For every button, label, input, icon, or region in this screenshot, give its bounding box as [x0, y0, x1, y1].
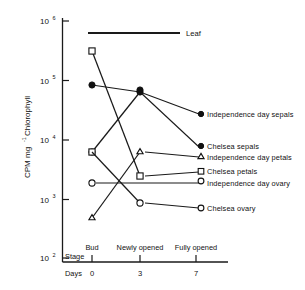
data-point	[137, 173, 143, 179]
x-category-fully-opened: Fully opened	[175, 243, 217, 252]
y-tick-mantissa: 10	[40, 136, 49, 145]
series-line-path	[92, 152, 140, 218]
legend-label: Independence day petals	[207, 153, 292, 162]
data-point	[137, 87, 143, 93]
filled-circle-icon	[198, 143, 203, 148]
row-label-stage: Stage	[65, 252, 84, 261]
y-tick-exponent: 5	[53, 74, 56, 80]
data-point	[137, 149, 143, 154]
legend-label: Chelsea ovary	[207, 204, 256, 213]
leader-line	[140, 92, 199, 147]
data-point	[89, 82, 95, 88]
leaf-reference-annotation: Leaf	[88, 29, 202, 38]
legend-item-independence-day-ovary[interactable]: Independence day ovary	[198, 178, 290, 188]
legend: Independence day sepals Chelsea sepals I…	[198, 110, 294, 213]
x-category-newly-opened: Newly opened	[117, 243, 164, 252]
series-independence-day-petals	[89, 149, 199, 220]
y-tick-label-1e4: 10 4	[40, 134, 56, 146]
y-tick-mantissa: 10	[40, 17, 49, 26]
legend-item-chelsea-petals[interactable]: Chelsea petals	[198, 167, 257, 176]
y-tick-label-1e3: 10 3	[40, 193, 56, 205]
y-tick-exponent: 2	[53, 252, 56, 258]
leaf-label: Leaf	[186, 29, 202, 38]
open-triangle-icon	[198, 153, 204, 158]
row-label-days: Days	[65, 269, 82, 278]
y-tick-mantissa: 10	[40, 254, 49, 263]
x-category-bud: Bud	[85, 243, 98, 252]
y-tick-exponent: 3	[53, 193, 56, 199]
open-square-icon	[198, 169, 204, 175]
filled-circle-icon	[198, 111, 203, 116]
legend-label: Chelsea petals	[207, 167, 257, 176]
y-axis: 10 6 10 5 10 4 10 3 10 2 CPM mg -1	[21, 15, 69, 264]
series-chelsea-sepals	[89, 87, 199, 155]
y-axis-title: CPM mg -1 Chlorophyll	[21, 96, 32, 178]
legend-label: Independence day sepals	[207, 110, 294, 119]
y-tick-label-1e6: 10 6	[40, 15, 56, 27]
y-tick-exponent: 4	[53, 134, 56, 140]
series-line-path	[92, 152, 140, 203]
y-axis-title-main: CPM mg	[23, 147, 32, 178]
y-tick-mantissa: 10	[40, 196, 49, 205]
y-tick-exponent: 6	[53, 15, 56, 21]
series-line-path	[92, 51, 140, 176]
legend-item-independence-day-sepals[interactable]: Independence day sepals	[198, 110, 293, 119]
open-circle-icon	[198, 205, 204, 211]
series-chelsea-petals	[89, 48, 199, 179]
series-independence-day-ovary	[89, 180, 199, 186]
leader-line	[140, 92, 199, 114]
x-day-tick-7: 7	[194, 269, 198, 278]
leader-line	[145, 172, 199, 176]
series-line-path	[92, 92, 140, 152]
y-tick-label-1e5: 10 5	[40, 74, 56, 86]
series-chelsea-ovary	[92, 152, 199, 208]
legend-label: Chelsea sepals	[207, 142, 259, 151]
data-point	[89, 180, 95, 186]
line-chart: 10 6 10 5 10 4 10 3 10 2 CPM mg -1	[0, 0, 305, 290]
legend-item-independence-day-petals[interactable]: Independence day petals	[198, 153, 292, 162]
y-tick-label-1e2: 10 2	[40, 252, 56, 264]
leader-line	[145, 203, 199, 208]
series-line-path	[92, 85, 140, 92]
legend-item-chelsea-ovary[interactable]: Chelsea ovary	[198, 204, 256, 213]
chart-root: 10 6 10 5 10 4 10 3 10 2 CPM mg -1	[0, 0, 305, 290]
data-point	[137, 200, 143, 206]
y-tick-mantissa: 10	[40, 77, 49, 86]
y-axis-title-tail: Chlorophyll	[23, 96, 32, 136]
legend-item-chelsea-sepals[interactable]: Chelsea sepals	[198, 142, 259, 151]
x-day-tick-0: 0	[90, 269, 94, 278]
data-point	[89, 48, 95, 54]
x-axis: Stage Days Bud Newly opened Fully opened…	[63, 243, 229, 278]
leader-line	[145, 152, 199, 157]
open-circle-icon	[198, 178, 204, 184]
y-axis-title-exponent: -1	[21, 137, 27, 142]
x-day-tick-3: 3	[138, 269, 142, 278]
legend-label: Independence day ovary	[207, 179, 290, 188]
